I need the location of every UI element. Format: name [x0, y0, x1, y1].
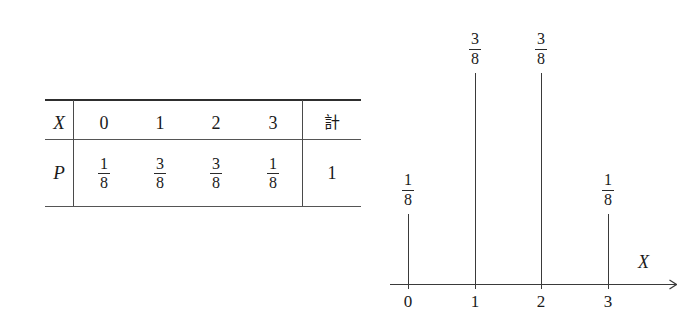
x-tick-label-1: 1 [463, 292, 487, 312]
fraction-numerator: 3 [154, 156, 166, 175]
fraction-denominator: 8 [402, 191, 414, 209]
table-row-label-p: P [45, 143, 73, 203]
table-vertical-rule-left [73, 100, 74, 207]
table-header-cell-3: 3 [244, 107, 302, 139]
table-total-value: 1 [303, 143, 361, 203]
fraction-denominator: 8 [154, 174, 166, 192]
fraction-numerator: 3 [469, 31, 481, 50]
table-header-cell-1: 1 [132, 107, 188, 139]
fraction-numerator: 3 [535, 31, 547, 50]
table-bottom-rule [45, 206, 361, 207]
table-probability-cell-1: 3 8 [132, 143, 188, 203]
fraction-numerator: 1 [402, 172, 414, 191]
fraction-numerator: 3 [210, 156, 222, 175]
table-header-cell-0: 0 [76, 107, 132, 139]
fraction-numerator: 1 [98, 156, 110, 175]
stem-bar-0 [408, 214, 409, 284]
fraction-three-eighths: 3 8 [210, 156, 222, 193]
stem-bar-3 [608, 214, 609, 284]
stem-value-label-3: 1 8 [588, 172, 628, 208]
x-tick-label-3: 3 [596, 292, 620, 312]
fraction-denominator: 8 [535, 50, 547, 68]
x-tick-label-2: 2 [529, 292, 553, 312]
table-probability-cell-0: 1 8 [76, 143, 132, 203]
stem-bar-2 [541, 73, 542, 284]
table-row-label-x: X [45, 107, 73, 139]
table-header-cell-2: 2 [188, 107, 244, 139]
table-top-rule [45, 99, 361, 101]
fraction-denominator: 8 [267, 174, 279, 192]
fraction-numerator: 1 [602, 172, 614, 191]
probability-distribution-table: X 0 1 2 3 計 P 1 8 3 8 3 8 1 8 1 [45, 99, 361, 207]
fraction-one-eighth: 1 8 [402, 172, 414, 208]
x-axis-arrow-icon [663, 278, 677, 291]
fraction-denominator: 8 [469, 50, 481, 68]
table-probability-cell-3: 1 8 [244, 143, 302, 203]
x-axis-label: X [638, 252, 649, 273]
fraction-one-eighth: 1 8 [602, 172, 614, 208]
fraction-three-eighths: 3 8 [469, 31, 481, 67]
fraction-numerator: 1 [267, 156, 279, 175]
table-header-cell-total: 計 [303, 107, 361, 139]
probability-stem-plot: X 0 1 2 3 1 8 3 8 3 8 1 8 [380, 0, 685, 328]
fraction-denominator: 8 [210, 174, 222, 192]
stem-value-label-1: 3 8 [455, 31, 495, 67]
fraction-one-eighth: 1 8 [98, 156, 110, 193]
table-probability-cell-2: 3 8 [188, 143, 244, 203]
fraction-one-eighth: 1 8 [267, 156, 279, 193]
fraction-denominator: 8 [602, 191, 614, 209]
fraction-denominator: 8 [98, 174, 110, 192]
table-middle-rule [45, 139, 361, 140]
fraction-three-eighths: 3 8 [154, 156, 166, 193]
stem-bar-1 [475, 73, 476, 284]
fraction-three-eighths: 3 8 [535, 31, 547, 67]
stem-value-label-0: 1 8 [388, 172, 428, 208]
x-tick-label-0: 0 [396, 292, 420, 312]
stem-value-label-2: 3 8 [521, 31, 561, 67]
x-axis-line [390, 284, 672, 285]
